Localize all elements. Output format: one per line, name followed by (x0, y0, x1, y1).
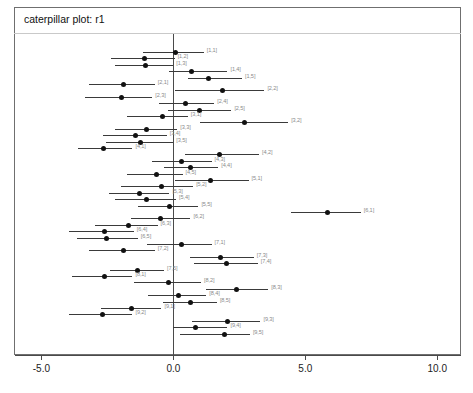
interval-label: [5,3] (172, 188, 182, 194)
interval-label: [2,2] (267, 85, 277, 91)
mean-point (126, 223, 131, 228)
mean-point (143, 63, 148, 68)
mean-point (144, 127, 149, 132)
interval-row: [2,3] (15, 97, 461, 98)
mean-point (119, 95, 124, 100)
interval-label: [5,5] (201, 201, 211, 207)
title-bar: caterpillar plot: r1 (14, 7, 461, 33)
interval-label: [1,1] (207, 47, 217, 53)
credible-interval-bar (180, 334, 250, 335)
interval-label: [2,4] (217, 98, 227, 104)
credible-interval-bar (173, 327, 227, 328)
x-axis-tick (173, 355, 174, 360)
interval-label: [8,1] (135, 271, 145, 277)
interval-row: [4,4] (15, 167, 461, 168)
x-axis-tick-label: 10.0 (428, 363, 447, 374)
mean-point (101, 146, 106, 151)
interval-label: [2,1] (158, 79, 168, 85)
interval-label: [7,5] (167, 265, 177, 271)
interval-row: [2,5] (15, 110, 461, 111)
interval-row: [5,1] (15, 180, 461, 181)
interval-label: [6,1] (364, 207, 374, 213)
interval-row: [2,2] (15, 90, 461, 91)
interval-label: [5,2] (196, 181, 206, 187)
interval-row: [6,3] (15, 225, 461, 226)
interval-row: [1,4] (15, 71, 461, 72)
interval-label: [5,1] (252, 175, 262, 181)
mean-point (242, 120, 247, 125)
mean-point (142, 56, 147, 61)
x-axis-line (15, 355, 461, 356)
interval-row: [1,5] (15, 78, 461, 79)
interval-row: [1,2] (15, 58, 461, 59)
interval-row: [9,4] (15, 327, 461, 328)
mean-point (220, 88, 225, 93)
interval-row: [5,2] (15, 186, 461, 187)
mean-point (129, 306, 134, 311)
x-axis-tick-label: -5.0 (33, 363, 50, 374)
interval-label: [8,2] (204, 277, 214, 283)
interval-row: [4,5] (15, 174, 461, 175)
x-axis-tick-label: 0.0 (166, 363, 180, 374)
mean-point (137, 191, 142, 196)
mean-point (121, 82, 126, 87)
interval-label: [8,3] (271, 284, 281, 290)
mean-point (102, 229, 107, 234)
mean-point (208, 178, 213, 183)
interval-label: [3,5] (176, 137, 186, 143)
interval-row: [7,3] (15, 257, 461, 258)
mean-point (183, 101, 188, 106)
interval-row: [3,2] (15, 122, 461, 123)
mean-point (206, 76, 211, 81)
interval-label: [9,1] (164, 303, 174, 309)
caterpillar-plot-window: caterpillar plot: r1 [1,1][1,2][1,3][1,4… (0, 0, 473, 393)
interval-label: [7,1] (215, 239, 225, 245)
credible-interval-bar (127, 116, 188, 117)
interval-row: [6,1] (15, 212, 461, 213)
mean-point (159, 184, 164, 189)
interval-label: [2,3] (155, 92, 165, 98)
interval-label: [6,4] (137, 226, 147, 232)
credible-interval-bar (188, 78, 242, 79)
mean-point (121, 248, 126, 253)
mean-point (176, 293, 181, 298)
mean-point (325, 210, 330, 215)
interval-row: [9,1] (15, 308, 461, 309)
interval-row: [8,4] (15, 295, 461, 296)
interval-label: [1,4] (230, 66, 240, 72)
x-axis-tick (437, 355, 438, 360)
interval-label: [4,2] (262, 149, 272, 155)
credible-interval-bar (169, 71, 227, 72)
interval-label: [6,2] (193, 213, 203, 219)
interval-row: [5,5] (15, 206, 461, 207)
mean-point (193, 325, 198, 330)
interval-label: [9,2] (135, 309, 145, 315)
interval-label: [1,3] (176, 60, 186, 66)
interval-row: [8,2] (15, 282, 461, 283)
interval-label: [4,3] (215, 156, 225, 162)
interval-row: [5,4] (15, 199, 461, 200)
interval-label: [7,2] (158, 245, 168, 251)
interval-label: [9,5] (253, 329, 263, 335)
interval-row: [7,5] (15, 270, 461, 271)
interval-row: [8,3] (15, 289, 461, 290)
interval-label: [6,3] (161, 220, 171, 226)
interval-label: [9,4] (230, 322, 240, 328)
interval-row: [6,5] (15, 238, 461, 239)
interval-row: [7,1] (15, 244, 461, 245)
mean-point (179, 242, 184, 247)
mean-point (144, 197, 149, 202)
interval-row: [7,2] (15, 250, 461, 251)
interval-row: [1,1] (15, 52, 461, 53)
mean-point (222, 332, 227, 337)
mean-point (160, 114, 165, 119)
interval-row: [3,5] (15, 142, 461, 143)
mean-point (100, 312, 105, 317)
interval-label: [4,4] (221, 162, 231, 168)
interval-label: [2,5] (234, 105, 244, 111)
mean-point (234, 287, 239, 292)
interval-row: [6,2] (15, 218, 461, 219)
interval-row: [3,3] (15, 129, 461, 130)
interval-label: [8,5] (220, 297, 230, 303)
interval-row: [3,4] (15, 135, 461, 136)
